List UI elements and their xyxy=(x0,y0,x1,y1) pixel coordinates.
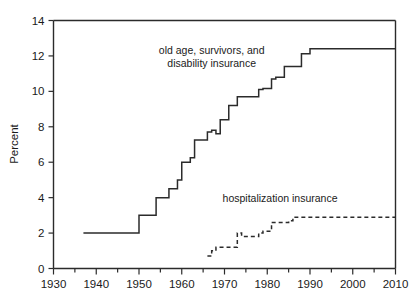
series-line-1 xyxy=(83,49,395,233)
series-annotation-group: old age, survivors, anddisability insura… xyxy=(159,44,338,204)
x-tick-label: 2000 xyxy=(340,278,366,290)
x-tick-label: 1990 xyxy=(297,278,323,290)
x-tick-group: 193019401950196019701980199020002010 xyxy=(41,269,409,290)
series-label-1: old age, survivors, and xyxy=(159,44,265,56)
y-axis-title: Percent xyxy=(8,123,20,163)
x-axis: 193019401950196019701980199020002010 xyxy=(41,269,409,290)
y-tick-label: 2 xyxy=(38,227,44,239)
y-tick-label: 0 xyxy=(38,263,44,275)
payroll-tax-rate-chart: 02468101214 1930194019501960197019801990… xyxy=(0,0,415,308)
x-tick-label: 1970 xyxy=(212,278,238,290)
y-tick-group: 02468101214 xyxy=(32,15,54,275)
x-tick-label: 2010 xyxy=(383,278,409,290)
y-tick-label: 12 xyxy=(32,50,45,62)
y-tick-label: 14 xyxy=(32,15,45,27)
series-label-1: disability insurance xyxy=(167,57,256,69)
chart-container: 02468101214 1930194019501960197019801990… xyxy=(0,0,415,308)
y-tick-label: 4 xyxy=(38,192,45,204)
series-label-2: hospitalization insurance xyxy=(223,192,338,204)
x-tick-label: 1980 xyxy=(254,278,280,290)
x-tick-label: 1930 xyxy=(41,278,67,290)
y-tick-label: 10 xyxy=(32,85,45,97)
y-tick-label: 6 xyxy=(38,156,44,168)
x-tick-label: 1950 xyxy=(126,278,152,290)
series-line-2 xyxy=(207,217,395,256)
data-series-group xyxy=(83,49,395,256)
y-tick-label: 8 xyxy=(38,121,44,133)
y-axis: 02468101214 xyxy=(32,15,54,275)
x-tick-label: 1960 xyxy=(169,278,195,290)
x-tick-label: 1940 xyxy=(83,278,109,290)
